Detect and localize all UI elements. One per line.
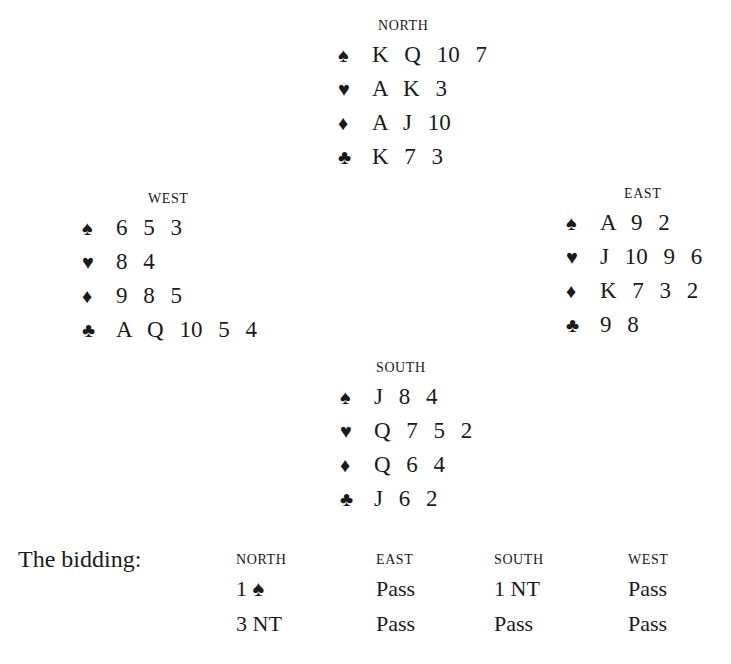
bid-column-north: NORTH 1 ♠ 3 NT [236, 552, 366, 646]
suit-row-hearts: ♥ A K 3 [338, 72, 487, 106]
suit-row-spades: ♠ J 8 4 [340, 380, 472, 414]
north-hand: NORTH ♠ K Q 10 7 ♥ A K 3 ♦ A J 10 ♣ K 7 … [338, 18, 487, 174]
bid-column-east: EAST Pass Pass [376, 552, 506, 646]
hand-title: SOUTH [340, 360, 472, 376]
suit-row-hearts: ♥ Q 7 5 2 [340, 414, 472, 448]
club-icon: ♣ [82, 319, 116, 342]
diamond-icon: ♦ [338, 112, 372, 135]
cards-clubs: J 6 2 [374, 486, 437, 512]
suit-row-spades: ♠ 6 5 3 [82, 211, 257, 245]
cards-spades: J 8 4 [374, 384, 437, 410]
club-icon: ♣ [338, 146, 372, 169]
west-hand: WEST ♠ 6 5 3 ♥ 8 4 ♦ 9 8 5 ♣ A Q 10 5 4 [82, 191, 257, 347]
cards-spades: K Q 10 7 [372, 42, 487, 68]
bid-cell: 3 NT [236, 611, 366, 646]
bid-cell: 1 NT [494, 576, 624, 611]
suit-row-clubs: ♣ J 6 2 [340, 482, 472, 516]
bid-cell: Pass [628, 611, 731, 646]
spade-icon: ♠ [566, 212, 600, 235]
bid-cell: Pass [628, 576, 731, 611]
bid-column-south: SOUTH 1 NT Pass [494, 552, 624, 646]
heart-icon: ♥ [340, 420, 374, 443]
cards-clubs: A Q 10 5 4 [116, 317, 257, 343]
cards-diamonds: K 7 3 2 [600, 278, 698, 304]
bid-cell: 1 ♠ [236, 576, 366, 611]
bid-header: NORTH [236, 552, 366, 576]
suit-row-hearts: ♥ 8 4 [82, 245, 257, 279]
bid-cell: Pass [376, 576, 506, 611]
south-hand: SOUTH ♠ J 8 4 ♥ Q 7 5 2 ♦ Q 6 4 ♣ J 6 2 [340, 360, 472, 516]
hand-title: NORTH [338, 18, 487, 34]
cards-clubs: K 7 3 [372, 144, 443, 170]
cards-hearts: A K 3 [372, 76, 447, 102]
bid-header: WEST [628, 552, 731, 576]
cards-hearts: 8 4 [116, 249, 155, 275]
heart-icon: ♥ [338, 78, 372, 101]
spade-icon: ♠ [82, 217, 116, 240]
bid-cell: Pass [376, 611, 506, 646]
cards-hearts: Q 7 5 2 [374, 418, 472, 444]
club-icon: ♣ [340, 488, 374, 511]
heart-icon: ♥ [566, 246, 600, 269]
bid-header: SOUTH [494, 552, 624, 576]
suit-row-spades: ♠ A 9 2 [566, 206, 702, 240]
suit-row-clubs: ♣ 9 8 [566, 308, 702, 342]
suit-row-diamonds: ♦ Q 6 4 [340, 448, 472, 482]
bid-column-west: WEST Pass Pass [628, 552, 731, 646]
spade-icon: ♠ [338, 44, 372, 67]
club-icon: ♣ [566, 314, 600, 337]
diamond-icon: ♦ [82, 285, 116, 308]
cards-hearts: J 10 9 6 [600, 244, 702, 270]
suit-row-diamonds: ♦ 9 8 5 [82, 279, 257, 313]
cards-diamonds: 9 8 5 [116, 283, 182, 309]
heart-icon: ♥ [82, 251, 116, 274]
bid-cell: Pass [494, 611, 624, 646]
suit-row-diamonds: ♦ A J 10 [338, 106, 487, 140]
suit-row-clubs: ♣ K 7 3 [338, 140, 487, 174]
cards-clubs: 9 8 [600, 312, 639, 338]
cards-spades: 6 5 3 [116, 215, 182, 241]
suit-row-hearts: ♥ J 10 9 6 [566, 240, 702, 274]
east-hand: EAST ♠ A 9 2 ♥ J 10 9 6 ♦ K 7 3 2 ♣ 9 8 [566, 186, 702, 342]
diamond-icon: ♦ [340, 454, 374, 477]
hand-title: EAST [566, 186, 702, 202]
suit-row-spades: ♠ K Q 10 7 [338, 38, 487, 72]
suit-row-clubs: ♣ A Q 10 5 4 [82, 313, 257, 347]
cards-spades: A 9 2 [600, 210, 670, 236]
hand-title: WEST [82, 191, 257, 207]
cards-diamonds: A J 10 [372, 110, 451, 136]
suit-row-diamonds: ♦ K 7 3 2 [566, 274, 702, 308]
spade-icon: ♠ [340, 386, 374, 409]
diamond-icon: ♦ [566, 280, 600, 303]
bidding-label: The bidding: [18, 546, 141, 573]
cards-diamonds: Q 6 4 [374, 452, 445, 478]
bid-header: EAST [376, 552, 506, 576]
